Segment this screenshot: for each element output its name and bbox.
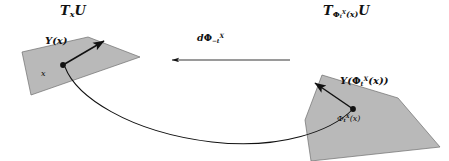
dm-d: d: [197, 32, 204, 43]
tsr-subscript-group: ΦtX(x): [333, 9, 359, 19]
tsl-manifold: U: [75, 3, 86, 18]
base-point-right: [350, 106, 356, 112]
base-point-right-label: ΦtX(x): [337, 114, 360, 123]
differential-map-label: dΦ−tX: [197, 33, 224, 44]
tsr-manifold: U: [358, 3, 369, 18]
pr-arg: (x): [350, 114, 361, 123]
dm-sup: X: [220, 32, 225, 39]
tsr-base: T: [323, 3, 333, 18]
vr-close: ): [384, 75, 389, 86]
vl-arg: (x): [52, 35, 67, 46]
dm-phi: Φ: [204, 32, 212, 43]
vector-left-label: Y(x): [45, 36, 68, 46]
vector-right-label: Y(ΦtX(x)): [340, 76, 388, 87]
tangent-plane-right: [305, 75, 440, 161]
base-point-left: [60, 62, 66, 68]
figure-canvas: TxU TΦtX(x)U dΦ−tX Y(x) x Y(ΦtX(x)) ΦtX(…: [0, 0, 449, 161]
tsl-base: T: [60, 3, 70, 18]
tangent-space-right-label: TΦtX(x)U: [323, 4, 370, 20]
tsr-arg: (x): [346, 9, 358, 19]
tangent-plane-left: [22, 37, 140, 95]
tangent-space-left-label: TxU: [60, 4, 86, 18]
dm-sub: −t: [212, 37, 220, 44]
tsr-phi: Φ: [333, 9, 340, 19]
vr-phi: Φ: [352, 75, 361, 86]
vr-arg: (x): [368, 75, 383, 86]
base-point-left-label: x: [41, 70, 46, 78]
